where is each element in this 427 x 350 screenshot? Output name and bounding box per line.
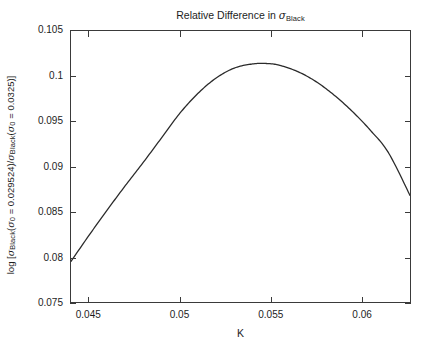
ylabel-sub-1: Black [8,231,17,250]
ylabel-sub-2: 0 [8,217,17,221]
y-tick-mark [405,167,411,168]
x-tick-label: 0.055 [258,309,283,320]
y-axis-label: log [σBlack(σ0 = 0.029524)/σBlack(σ0 = 0… [5,76,20,275]
y-tick-label: 0.08 [44,253,63,263]
ylabel-open: log [ [5,256,16,274]
x-tick-mark [362,297,363,303]
x-tick-label: 0.045 [76,309,101,320]
ylabel-sigma-2: σ [5,221,16,228]
x-tick-mark [271,31,272,37]
ylabel-eq-1: = 0.029524)/ [5,161,16,217]
chart-figure: Relative Difference in σBlack log [σBlac… [0,0,427,350]
y-tick-label: 0.105 [38,25,63,35]
x-tick-mark [88,31,89,37]
chart-title-sigma-symbol: σ [279,9,286,21]
x-tick-label: 0.06 [352,309,371,320]
y-tick-mark [70,30,76,31]
x-tick-mark [271,297,272,303]
chart-title-sigma-subscript: Black [286,14,305,23]
x-tick-label: 0.05 [170,309,189,320]
x-axis-label: K [70,327,411,339]
ylabel-sub-4: 0 [8,121,17,125]
chart-title-prefix: Relative Difference in [176,9,279,21]
x-tick-mark [180,31,181,37]
y-tick-mark [405,303,411,304]
ylabel-sigma-3: σ [5,154,16,161]
y-tick-label: 0.085 [38,207,63,217]
plot-area [70,30,411,303]
y-tick-mark [405,258,411,259]
y-tick-label: 0.09 [44,162,63,172]
y-tick-mark [70,303,76,304]
y-tick-mark [70,212,76,213]
y-tick-mark [405,212,411,213]
ylabel-sub-3: Black [8,135,17,154]
y-tick-label: 0.075 [38,298,63,308]
y-tick-mark [70,121,76,122]
y-tick-mark [405,76,411,77]
y-tick-mark [70,258,76,259]
ylabel-eq-2: = 0.0325)] [5,76,16,122]
ylabel-paren-2: ( [5,132,16,135]
y-tick-mark [70,76,76,77]
y-tick-mark [70,167,76,168]
y-tick-label: 0.1 [49,71,63,81]
ylabel-sigma-1: σ [5,250,16,257]
x-tick-mark [88,297,89,303]
ylabel-sigma-4: σ [5,126,16,133]
y-tick-label: 0.095 [38,116,63,126]
x-tick-mark [180,297,181,303]
curve-svg [71,31,410,302]
y-tick-mark [405,30,411,31]
chart-title: Relative Difference in σBlack [70,9,411,25]
data-curve-line [71,63,410,261]
y-axis-label-wrapper: log [σBlack(σ0 = 0.029524)/σBlack(σ0 = 0… [0,0,24,350]
x-tick-mark [362,31,363,37]
y-tick-mark [405,121,411,122]
